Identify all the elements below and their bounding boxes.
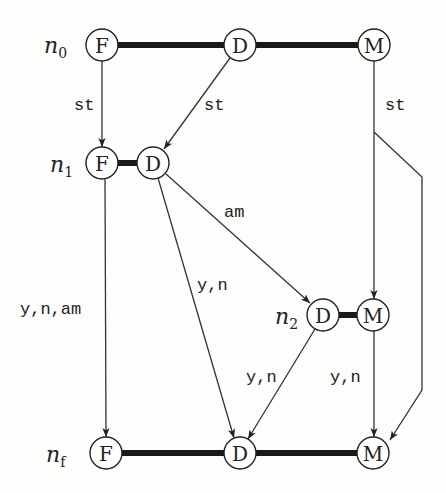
edge-n1F-nfF xyxy=(105,179,106,437)
row-label-n2: n2 xyxy=(275,304,298,332)
svg-text:D: D xyxy=(315,304,331,328)
edge-label-y-n-am: y,n,am xyxy=(20,300,81,319)
node-n2-M: M xyxy=(357,299,389,331)
edge-label-y-n-M: y,n xyxy=(330,368,361,387)
edge-n0M-nfM-outer xyxy=(374,132,422,440)
svg-text:M: M xyxy=(363,442,383,466)
svg-text:F: F xyxy=(95,34,109,58)
edge-label-y-n-D2: y,n xyxy=(246,368,277,387)
node-n1-F: F xyxy=(86,147,118,179)
node-n1-D: D xyxy=(137,147,169,179)
svg-text:D: D xyxy=(232,34,248,58)
edge-n1D-nfD xyxy=(158,178,234,438)
row-label-n1: n1 xyxy=(50,152,73,180)
node-n0-D: D xyxy=(224,29,256,61)
node-n2-D: D xyxy=(307,299,339,331)
node-nf-F: F xyxy=(90,437,122,469)
node-n0-F: F xyxy=(86,29,118,61)
row-label-n0: n0 xyxy=(44,33,67,61)
state-diagram: st st st am y,n,am y,n y,n y,n n0 n1 n2 … xyxy=(0,0,446,493)
edge-n1D-n2D xyxy=(166,174,310,303)
svg-text:M: M xyxy=(363,304,383,328)
edge-label-st-D: st xyxy=(204,96,224,115)
svg-text:M: M xyxy=(364,34,384,58)
edge-label-y-n-D1: y,n xyxy=(197,276,228,295)
svg-text:D: D xyxy=(232,442,248,466)
edge-label-am: am xyxy=(224,203,244,222)
svg-text:F: F xyxy=(95,152,109,176)
node-nf-M: M xyxy=(357,437,389,469)
svg-text:F: F xyxy=(99,442,113,466)
svg-text:D: D xyxy=(145,152,161,176)
node-n0-M: M xyxy=(358,29,390,61)
edge-label-st-F: st xyxy=(74,96,94,115)
node-nf-D: D xyxy=(224,437,256,469)
edge-label-st-M: st xyxy=(385,96,405,115)
row-label-nf: nf xyxy=(46,442,67,470)
